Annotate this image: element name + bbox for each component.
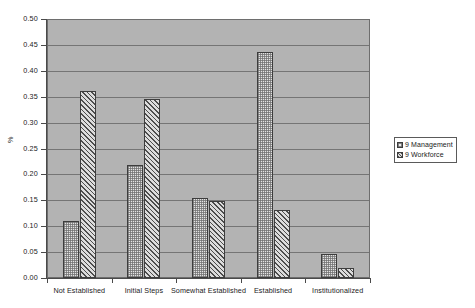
legend-swatch-workforce-icon — [397, 152, 403, 158]
legend-swatch-management-icon — [397, 142, 403, 148]
bar — [127, 165, 143, 278]
y-axis-tick — [41, 71, 47, 72]
legend-item-management[interactable]: 9 Management — [397, 140, 453, 150]
y-axis-tick-label: 0.50 — [0, 14, 38, 23]
x-axis-line — [46, 278, 371, 279]
gridline — [48, 45, 369, 46]
y-axis-tick-label: 0.05 — [0, 247, 38, 256]
bar — [192, 198, 208, 278]
gridline — [48, 97, 369, 98]
x-axis-tick — [176, 279, 177, 283]
y-axis-tick-label: 0.20 — [0, 169, 38, 178]
y-axis-tick — [41, 149, 47, 150]
bar — [338, 268, 354, 278]
y-axis-tick — [41, 97, 47, 98]
y-axis-tick — [41, 19, 47, 20]
x-axis-tick — [112, 279, 113, 283]
bar-chart: % 0.500.450.400.350.300.250.200.150.100.… — [0, 0, 475, 308]
y-axis-tick-label: 0.00 — [0, 273, 38, 282]
bar — [274, 210, 290, 278]
bar — [144, 99, 160, 278]
legend-item-workforce[interactable]: 9 Workforce — [397, 150, 453, 160]
bar — [80, 91, 96, 278]
legend-label-workforce: 9 Workforce — [405, 150, 444, 160]
bar — [63, 221, 79, 278]
y-axis-tick — [41, 200, 47, 201]
x-axis-tick — [47, 279, 48, 283]
x-axis-tick — [305, 279, 306, 283]
y-axis-title: % — [6, 137, 15, 143]
x-axis-tick — [241, 279, 242, 283]
y-axis-tick — [41, 45, 47, 46]
legend-label-management: 9 Management — [405, 140, 453, 150]
y-axis-tick-label: 0.10 — [0, 221, 38, 230]
x-axis-tick — [370, 279, 371, 283]
y-axis-tick — [41, 123, 47, 124]
gridline — [48, 71, 369, 72]
y-axis-tick-label: 0.25 — [0, 144, 38, 153]
y-axis-tick-label: 0.30 — [0, 118, 38, 127]
bar — [321, 254, 337, 278]
legend: 9 Management 9 Workforce — [394, 137, 457, 163]
y-axis-tick — [41, 174, 47, 175]
y-axis-tick-label: 0.45 — [0, 40, 38, 49]
gridline — [48, 149, 369, 150]
y-axis-tick-label: 0.35 — [0, 92, 38, 101]
gridline — [48, 123, 369, 124]
x-axis-tick-label: Institutionalized — [278, 286, 398, 295]
y-axis-tick — [41, 226, 47, 227]
y-axis-tick-label: 0.40 — [0, 66, 38, 75]
bar — [209, 201, 225, 278]
y-axis-tick-label: 0.15 — [0, 195, 38, 204]
y-axis-tick — [41, 252, 47, 253]
bar — [257, 52, 273, 278]
gridline — [48, 174, 369, 175]
